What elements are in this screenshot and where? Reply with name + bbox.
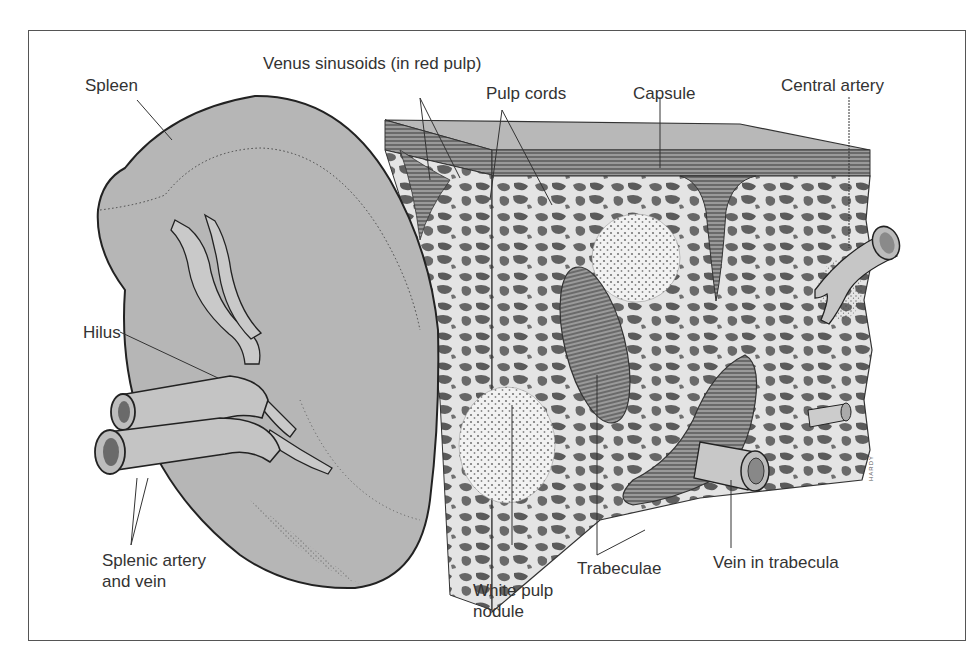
tissue-block: [385, 120, 904, 612]
spleen-organ: [95, 96, 438, 588]
label-pulp-cords: Pulp cords: [486, 83, 566, 104]
label-spleen: Spleen: [85, 75, 138, 96]
white-pulp-nodule-upper: [592, 214, 680, 302]
label-white-pulp-nodule: White pulp nodule: [473, 580, 553, 622]
label-vein-in-trabecula: Vein in trabecula: [713, 552, 839, 573]
white-pulp-nodule-lower: [459, 387, 555, 503]
label-venus-sinusoids: Venus sinusoids (in red pulp): [263, 53, 481, 74]
label-central-artery: Central artery: [781, 75, 884, 96]
artist-signature: HARDY: [868, 455, 874, 481]
label-trabeculae: Trabeculae: [577, 558, 661, 579]
label-hilus: Hilus: [83, 322, 121, 343]
label-splenic-artery-vein: Splenic artery and vein: [102, 550, 206, 592]
label-capsule: Capsule: [633, 83, 695, 104]
